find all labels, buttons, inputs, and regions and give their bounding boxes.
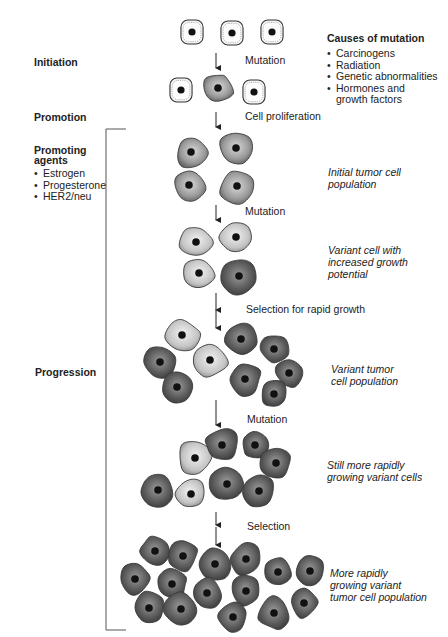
step-mutation-1: Mutation: [245, 54, 285, 66]
cause-item: Hormones and growth factors: [327, 83, 438, 106]
population-initial: Initial tumor cell population: [328, 166, 401, 190]
stage-progression-label: Progression: [35, 366, 96, 378]
promoting-agents-list: Estrogen Progesterone HER2/neu: [34, 168, 106, 203]
tumor-cell: [165, 319, 201, 350]
rapid-growth-tumor-cell: [262, 381, 286, 407]
rapid-growth-tumor-cell: [243, 475, 274, 507]
step-selection: Selection: [247, 520, 290, 532]
population-variant-cell: Variant cell with increased growth poten…: [328, 244, 408, 280]
tumor-cell: [220, 133, 253, 164]
cause-item: Carcinogens: [327, 48, 438, 60]
promoting-agent-item: HER2/neu: [34, 191, 106, 203]
promoting-agents-title: Promoting agents: [34, 145, 106, 165]
population-still-more-rapid: Still more rapidly growing variant cells: [327, 459, 422, 483]
rapid-growth-tumor-cell: [296, 556, 323, 586]
step-mutation-3: Mutation: [247, 413, 287, 425]
step-mutation-2: Mutation: [245, 205, 285, 217]
causes-of-mutation: Causes of mutation Carcinogens Radiation…: [327, 32, 438, 106]
normal-cell: [261, 20, 283, 44]
stage-promotion-label: Promotion: [34, 111, 87, 123]
rapid-growth-tumor-cell: [265, 558, 292, 585]
tumor-cell: [175, 171, 206, 201]
rapid-growth-tumor-cell: [135, 591, 164, 622]
step-cell-proliferation: Cell proliferation: [245, 110, 321, 122]
population-variant-tumor: Variant tumor cell population: [331, 363, 398, 387]
normal-cell: [170, 78, 192, 102]
tumor-cell: [204, 75, 234, 101]
rapid-growth-tumor-cell: [169, 541, 198, 572]
normal-cell: [181, 20, 203, 44]
stage-initiation-label: Initiation: [34, 56, 78, 68]
rapid-growth-tumor-cell: [224, 323, 257, 354]
rapid-growth-tumor-cell: [194, 577, 222, 608]
rapid-growth-tumor-cell: [232, 575, 259, 606]
rapid-growth-tumor-cell: [163, 372, 193, 403]
tumor-cell: [220, 171, 254, 204]
rapid-growth-tumor-cell: [292, 588, 319, 618]
tumor-cell: [178, 138, 209, 168]
rapid-growth-tumor-cell: [199, 548, 231, 580]
causes-list: Carcinogens Radiation Genetic abnormalit…: [327, 48, 438, 106]
rapid-growth-tumor-cell: [258, 596, 289, 630]
tumor-cell: [184, 259, 215, 287]
causes-of-mutation-title: Causes of mutation: [327, 32, 438, 44]
rapid-growth-tumor-cell: [260, 448, 290, 478]
rapid-growth-tumor-cell: [121, 563, 150, 595]
normal-cell: [221, 21, 243, 45]
normal-cell: [243, 80, 265, 104]
tumor-cell: [193, 344, 228, 377]
cause-item: Genetic abnormalities: [327, 71, 438, 83]
step-selection-rapid-growth: Selection for rapid growth: [246, 303, 365, 315]
rapid-growth-tumor-cell: [221, 260, 256, 295]
rapid-growth-tumor-cell: [260, 336, 289, 363]
promoting-agents: Promoting agents Estrogen Progesterone H…: [34, 145, 106, 203]
tumor-cell: [219, 223, 252, 252]
tumor-cell: [175, 479, 204, 506]
tumor-cell: [179, 228, 213, 256]
promoting-agent-item: Estrogen: [34, 168, 106, 180]
rapid-growth-tumor-cell: [209, 467, 243, 499]
progression-bracket: [106, 129, 126, 630]
population-more-rapid: More rapidly growing variant tumor cell …: [330, 567, 427, 603]
rapid-growth-tumor-cell: [230, 542, 260, 575]
rapid-growth-tumor-cell: [140, 536, 170, 565]
rapid-growth-tumor-cell: [141, 474, 173, 507]
rapid-growth-tumor-cell: [230, 364, 261, 396]
rapid-growth-tumor-cell: [218, 602, 246, 632]
